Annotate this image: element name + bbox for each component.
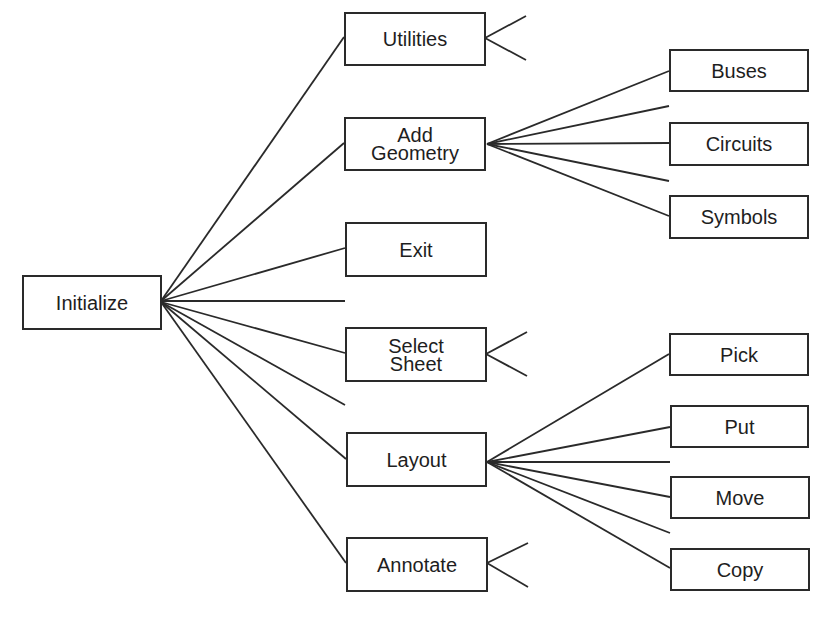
node-label: Add Geometry [371,126,459,162]
node-initialize[interactable]: Initialize [22,275,162,330]
connector-line [485,16,526,38]
connector-line [161,302,346,563]
node-label: Layout [386,451,446,469]
connector-line [487,462,670,533]
connector-line [487,71,669,144]
node-label: Pick [720,346,758,364]
node-layout[interactable]: Layout [346,432,487,487]
menu-hierarchy-diagram: Initialize Utilities Add Geometry Exit S… [0,0,831,621]
connector-line [487,462,670,497]
node-label: Copy [717,561,764,579]
connector-line [487,427,670,462]
node-label: Exit [399,241,432,259]
connector-line [485,38,526,60]
node-label: Utilities [383,30,447,48]
connector-line [161,143,344,301]
connector-line [161,302,346,459]
node-label: Symbols [701,208,778,226]
node-add-geometry[interactable]: Add Geometry [344,117,486,171]
connector-line [487,543,528,563]
connector-line [487,106,669,144]
node-annotate[interactable]: Annotate [346,537,488,592]
node-put[interactable]: Put [670,405,809,448]
node-buses[interactable]: Buses [669,49,809,92]
connector-line [161,302,345,405]
connector-line [486,354,527,376]
connector-line [487,144,669,181]
node-pick[interactable]: Pick [669,333,809,376]
node-exit[interactable]: Exit [345,222,487,277]
node-circuits[interactable]: Circuits [669,122,809,166]
node-utilities[interactable]: Utilities [344,12,486,66]
node-label: Put [724,418,754,436]
node-label: Circuits [706,135,773,153]
connector-line [161,37,344,301]
node-move[interactable]: Move [670,476,810,519]
connector-line [487,563,528,587]
connector-line [487,143,669,144]
node-copy[interactable]: Copy [670,548,810,591]
node-label: Select Sheet [388,337,444,373]
connector-line [487,462,670,568]
node-select-sheet[interactable]: Select Sheet [345,327,487,382]
connector-line [161,302,345,353]
node-label: Annotate [377,556,457,574]
node-symbols[interactable]: Symbols [669,195,809,239]
node-label: Move [716,489,765,507]
connector-line [487,144,669,216]
node-label: Buses [711,62,767,80]
connector-line [161,248,345,301]
node-label: Initialize [56,294,128,312]
connector-line [486,332,527,354]
